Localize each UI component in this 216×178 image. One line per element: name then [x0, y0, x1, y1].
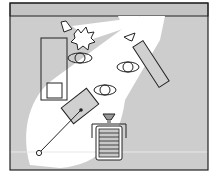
- backdrop-wall: [10, 3, 208, 16]
- stool: [47, 83, 62, 98]
- camera-neck: [107, 120, 111, 123]
- camera-on-tripod: [96, 126, 122, 160]
- lighting-diagram: [0, 0, 216, 178]
- light-stand-handle-end[interactable]: [36, 150, 41, 155]
